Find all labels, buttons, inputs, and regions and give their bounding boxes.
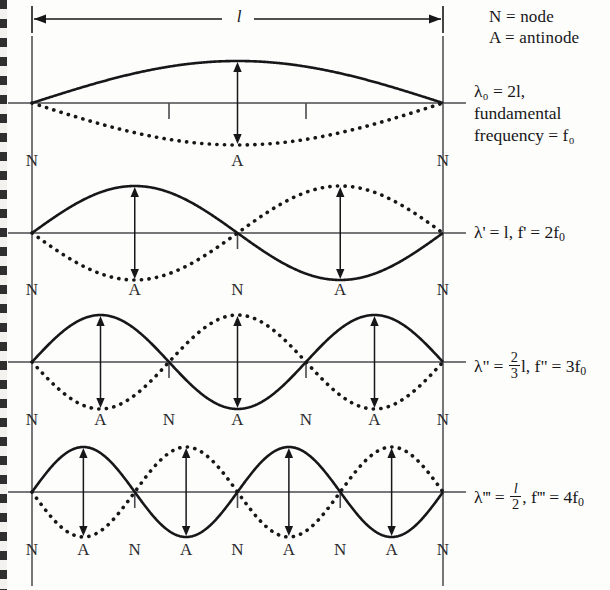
antinode-label-fourth-harmonic-1: A <box>77 541 89 558</box>
amplitude-arrow-head-up-fundamental-0 <box>233 62 241 72</box>
amplitude-arrow-head-down-fourth-harmonic-3 <box>387 526 395 536</box>
antinode-label-third-harmonic-3: A <box>231 411 243 428</box>
node-label-fundamental-0: N <box>26 152 38 169</box>
amplitude-arrow-head-down-second-harmonic-1 <box>336 269 344 279</box>
amplitude-arrow-head-up-third-harmonic-2 <box>370 316 378 326</box>
node-label-third-harmonic-2: N <box>163 411 175 428</box>
antinode-label-fourth-harmonic-5: A <box>283 541 295 558</box>
amplitude-arrow-head-up-third-harmonic-1 <box>233 316 241 326</box>
amplitude-arrow-head-up-second-harmonic-0 <box>131 187 139 197</box>
length-dimension-label: l <box>237 7 242 27</box>
amplitude-arrow-head-up-fourth-harmonic-2 <box>285 448 293 458</box>
node-label-third-harmonic-0: N <box>26 411 38 428</box>
legend-antinode: A = antinode <box>489 27 579 48</box>
dimension-arrow-left <box>34 15 46 24</box>
amplitude-arrow-head-down-fourth-harmonic-0 <box>79 526 87 536</box>
amplitude-arrow-head-down-fundamental-0 <box>233 134 241 144</box>
amplitude-arrow-head-down-third-harmonic-2 <box>370 398 378 408</box>
amplitude-arrow-head-down-second-harmonic-0 <box>131 269 139 279</box>
node-label-fourth-harmonic-4: N <box>231 541 243 558</box>
node-label-third-harmonic-6: N <box>437 411 449 428</box>
node-label-fundamental-2: N <box>437 152 449 169</box>
node-label-third-harmonic-4: N <box>300 411 312 428</box>
antinode-label-fourth-harmonic-3: A <box>180 541 192 558</box>
amplitude-arrow-head-down-third-harmonic-0 <box>96 398 104 408</box>
antinode-label-third-harmonic-1: A <box>94 411 106 428</box>
antinode-label-second-harmonic-3: A <box>334 281 346 298</box>
mode-label-third-harmonic: λ" = 23l, f" = 3f0 <box>474 350 586 380</box>
node-label-second-harmonic-2: N <box>231 281 243 298</box>
node-label-fourth-harmonic-6: N <box>334 541 346 558</box>
mode-label-fundamental: λ₀ = 2l, fundamental frequency = f₀ <box>474 80 575 146</box>
mode-label-fundamental-line2: fundamental <box>474 102 575 124</box>
amplitude-arrow-head-up-second-harmonic-1 <box>336 187 344 197</box>
mode-label-fourth-harmonic: λ''' = l2, f''' = 4f0 <box>474 481 584 511</box>
node-label-second-harmonic-4: N <box>437 281 449 298</box>
legend-node: N = node <box>489 6 554 27</box>
amplitude-arrow-head-up-fourth-harmonic-1 <box>182 448 190 458</box>
amplitude-arrow-head-down-fourth-harmonic-1 <box>182 526 190 536</box>
node-label-fourth-harmonic-8: N <box>437 541 449 558</box>
amplitude-arrow-head-up-third-harmonic-0 <box>96 316 104 326</box>
node-label-second-harmonic-0: N <box>26 281 38 298</box>
amplitude-arrow-head-down-fourth-harmonic-2 <box>285 526 293 536</box>
mode-label-fundamental-line3: frequency = f₀ <box>474 124 575 146</box>
antinode-label-fourth-harmonic-7: A <box>385 541 397 558</box>
node-label-fourth-harmonic-0: N <box>26 541 38 558</box>
antinode-label-third-harmonic-5: A <box>368 411 380 428</box>
antinode-label-second-harmonic-1: A <box>129 281 141 298</box>
amplitude-arrow-head-up-fourth-harmonic-3 <box>387 448 395 458</box>
mode-label-second-harmonic: λ' = l, f' = 2f0 <box>474 221 565 245</box>
amplitude-arrow-head-down-third-harmonic-1 <box>233 398 241 408</box>
antinode-label-fundamental-1: A <box>231 152 243 169</box>
node-label-fourth-harmonic-2: N <box>129 541 141 558</box>
amplitude-arrow-head-up-fourth-harmonic-0 <box>79 448 87 458</box>
dimension-arrow-right <box>429 15 441 24</box>
mode-label-fundamental-line1: λ₀ = 2l, <box>474 80 575 102</box>
standing-wave-diagram: l N = node A = antinode λ₀ = 2l, fundame… <box>0 0 610 590</box>
